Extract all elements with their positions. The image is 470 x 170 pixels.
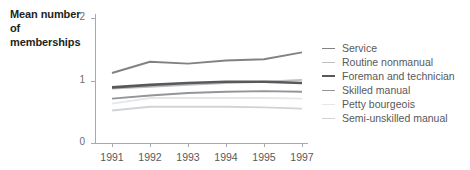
x-axis-tick-label: 1997 [290, 151, 313, 163]
series-line [112, 107, 302, 111]
legend-line-swatch-icon [322, 48, 335, 49]
legend-line-swatch-icon [322, 62, 335, 63]
series-line [112, 52, 302, 73]
legend-item[interactable]: Service [322, 41, 455, 55]
series-line [112, 98, 302, 104]
series-lines [95, 14, 310, 146]
legend-item[interactable]: Petty bourgeois [322, 97, 455, 111]
legend-line-swatch-icon [322, 104, 335, 105]
x-axis-tick-label: 1991 [100, 151, 123, 163]
legend-item-label: Routine nonmanual [342, 56, 433, 68]
x-axis-tick-label: 1994 [214, 151, 237, 163]
legend-item-label: Service [342, 42, 377, 54]
chart-figure: Mean number of memberships 012 199119921… [0, 0, 470, 170]
y-axis-tick-label: 0 [79, 136, 85, 147]
x-axis-tick-label: 1992 [138, 151, 161, 163]
y-axis-tick-label: 1 [79, 74, 85, 85]
legend-item-label: Foreman and technician [342, 70, 455, 82]
x-axis-tick-label: 1993 [176, 151, 199, 163]
legend-item-label: Semi-unskilled manual [342, 112, 448, 124]
legend-item[interactable]: Skilled manual [322, 83, 455, 97]
y-axis-title: Mean number of memberships [10, 7, 88, 49]
legend-item[interactable]: Routine nonmanual [322, 55, 455, 69]
plot-area: 012 199119921993199419951997 [95, 14, 310, 146]
legend-item[interactable]: Foreman and technician [322, 69, 455, 83]
legend-item[interactable]: Semi-unskilled manual [322, 111, 455, 125]
legend-line-swatch-icon [322, 75, 335, 77]
legend-line-swatch-icon [322, 118, 335, 119]
legend-line-swatch-icon [322, 90, 335, 91]
legend-item-label: Petty bourgeois [342, 98, 415, 110]
legend-item-label: Skilled manual [342, 84, 410, 96]
x-axis-tick-label: 1995 [252, 151, 275, 163]
y-axis-tick-label: 2 [79, 11, 85, 22]
legend: ServiceRoutine nonmanualForeman and tech… [322, 41, 455, 125]
